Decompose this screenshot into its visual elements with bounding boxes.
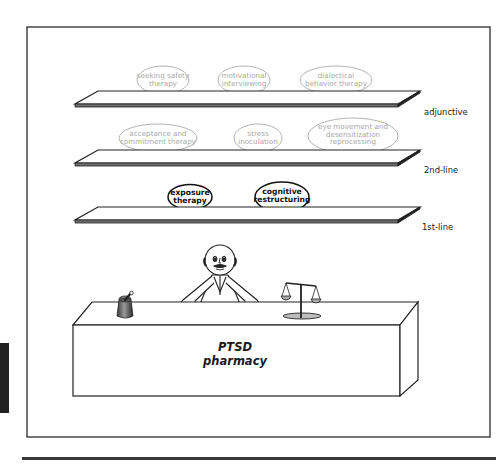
treatment-label-line: interviewing: [214, 80, 274, 88]
treatment-cognitive-restructuring: cognitive restructuring: [247, 188, 317, 204]
treatment-stress-inoculation: stress inoculation: [228, 130, 288, 145]
treatment-dialectical-behavior-therapy: dialectical behavior therapy: [296, 72, 376, 87]
ptsd-pharmacy-diagram: seeking safety therapy motivational inte…: [0, 0, 504, 466]
page-side-tab: [0, 343, 9, 413]
treatment-exposure-therapy: exposure therapy: [165, 189, 215, 205]
treatment-eye-movement-desensitization-reprocessing: eye movement and desensitization reproce…: [306, 123, 400, 146]
treatment-label-line: reprocessing: [306, 138, 400, 146]
title-line-pharmacy: pharmacy: [190, 354, 280, 368]
treatment-seeking-safety-therapy: seeking safety therapy: [133, 72, 193, 87]
tier-label-2nd-line: 2nd-line: [424, 165, 458, 175]
treatment-motivational-interviewing: motivational interviewing: [214, 72, 274, 87]
treatment-label-line: commitment therapy: [113, 138, 203, 146]
title-line-ptsd: PTSD: [190, 340, 280, 354]
treatment-label-line: behavior therapy: [296, 80, 376, 88]
tier-label-adjunctive: adjunctive: [424, 107, 468, 117]
pharmacist-figure: [178, 245, 262, 310]
page-bottom-rule: [22, 457, 496, 460]
treatment-label-line: inoculation: [228, 138, 288, 146]
balance-scale-icon: [281, 283, 321, 319]
pharmacy-title: PTSD pharmacy: [190, 340, 280, 369]
treatment-label-line: restructuring: [247, 196, 317, 204]
treatment-label-line: therapy: [133, 80, 193, 88]
treatment-label-line: therapy: [165, 197, 215, 205]
treatment-acceptance-commitment-therapy: acceptance and commitment therapy: [113, 130, 203, 145]
mortar-and-pestle-icon: [117, 291, 133, 318]
tier-label-1st-line: 1st-line: [422, 222, 453, 232]
diagram-graphics: [0, 0, 504, 466]
